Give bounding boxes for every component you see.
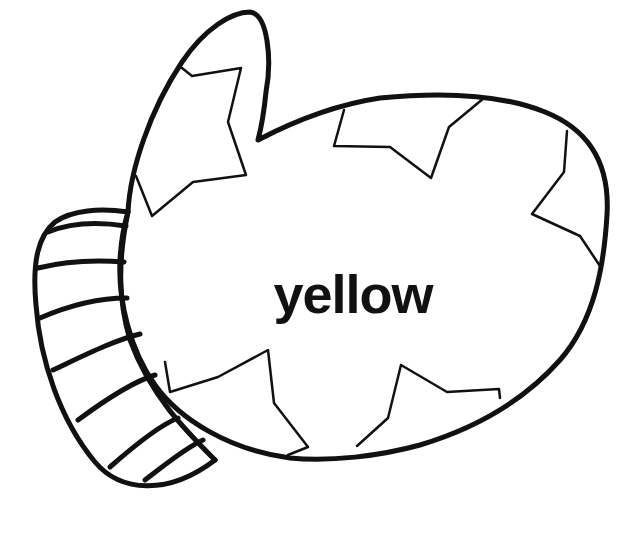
mitten-outline [120, 12, 608, 459]
cuff [35, 210, 215, 486]
color-word: yellow [258, 258, 448, 330]
